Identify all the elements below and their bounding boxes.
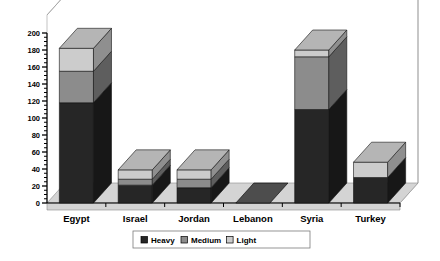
y-tick-label: 0 [36, 199, 40, 208]
bar-segment-front[interactable] [177, 188, 211, 203]
bar-segment-front[interactable] [118, 170, 152, 179]
bar-segment-front[interactable] [118, 179, 152, 185]
legend-swatch[interactable] [227, 237, 234, 244]
bar-segment-front[interactable] [59, 48, 93, 71]
x-category-label: Egypt [63, 213, 90, 224]
y-tick-label: 100 [27, 114, 40, 123]
bar-segment-front[interactable] [295, 57, 329, 110]
legend-label: Heavy [151, 236, 175, 245]
bar-segment-side[interactable] [93, 83, 111, 203]
bar-segment-front[interactable] [295, 50, 329, 57]
y-tick-label: 120 [27, 97, 40, 106]
bar-segment-front[interactable] [59, 71, 93, 102]
x-category-label: Jordan [178, 213, 210, 224]
x-category-label: Syria [300, 213, 324, 224]
chart-container: 020406080100120140160180200EgyptIsraelJo… [0, 0, 440, 261]
y-tick-label: 160 [27, 63, 40, 72]
y-tick-label: 140 [27, 80, 40, 89]
x-category-label: Israel [123, 213, 148, 224]
bar-segment-front[interactable] [354, 162, 388, 177]
bar-segment-front[interactable] [118, 185, 152, 203]
y-tick-label: 40 [32, 165, 40, 174]
bar-segment-front[interactable] [354, 178, 388, 204]
y-tick-label: 200 [27, 29, 40, 38]
bar-segment-front[interactable] [177, 170, 211, 179]
y-tick-label: 80 [32, 131, 40, 140]
legend-swatch[interactable] [181, 237, 188, 244]
legend-label: Medium [191, 236, 221, 245]
y-tick-label: 180 [27, 46, 40, 55]
x-category-label: Turkey [355, 213, 386, 224]
y-tick-label: 60 [32, 148, 40, 157]
bar-chart-3d: 020406080100120140160180200EgyptIsraelJo… [0, 0, 440, 261]
bar-segment-front[interactable] [59, 103, 93, 203]
y-tick-label: 20 [32, 182, 40, 191]
bar-segment-front[interactable] [177, 179, 211, 188]
legend-swatch[interactable] [141, 237, 148, 244]
bar-segment-front[interactable] [295, 110, 329, 204]
x-category-label: Lebanon [233, 213, 273, 224]
legend-label: Light [237, 236, 257, 245]
